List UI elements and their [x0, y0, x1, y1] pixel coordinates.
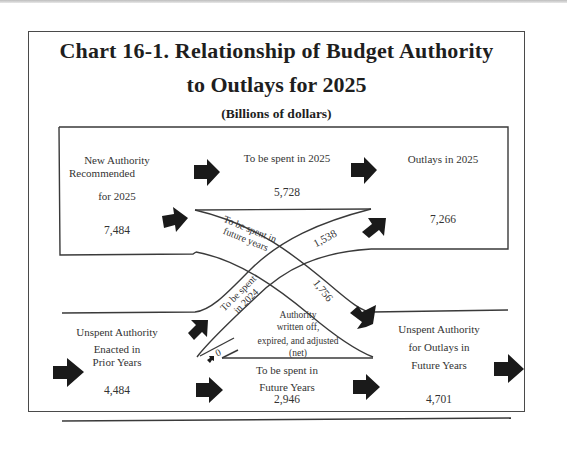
arrow-new-to-2025	[194, 159, 220, 186]
unspent-prior-label-3: Prior Years	[62, 356, 172, 368]
new-authority-label-1: New Authority	[62, 154, 172, 166]
to-be-spent-2025-value: 5,728	[222, 186, 352, 198]
bottom-band-line	[62, 418, 511, 421]
new-authority-label-2: Recommended	[62, 167, 142, 179]
unspent-future-label-3: Future Years	[384, 359, 494, 371]
unspent-prior-label-2: Enacted in	[62, 343, 172, 355]
written-off-label-3: expired, and adjusted	[238, 336, 358, 346]
to-be-spent-future-label-1: To be spent in	[227, 364, 347, 376]
unspent-prior-label-1: Unspent Authority	[62, 326, 172, 338]
new-authority-value: 7,484	[62, 224, 172, 236]
new-authority-label-3: for 2025	[62, 190, 172, 202]
arrow-zero	[207, 356, 214, 363]
unspent-future-label-2: for Outlays in	[384, 341, 494, 353]
unspent-future-value: 4,701	[384, 393, 494, 405]
spent-2025-wedge-top	[195, 209, 371, 210]
to-be-spent-future-label-2: Future Years	[227, 381, 347, 393]
written-off-label-1: Authority	[238, 310, 358, 320]
outlays-2025-label: Outlays in 2025	[378, 153, 508, 165]
unspent-prior-value: 4,484	[62, 384, 172, 396]
written-off-label-2: written off,	[238, 322, 358, 332]
to-be-spent-future-value: 2,946	[227, 393, 347, 405]
arrow-2025-to-outlays	[351, 157, 377, 184]
arrow-prior-up	[188, 320, 208, 340]
unspent-future-label-1: Unspent Authority	[384, 323, 494, 335]
to-be-spent-2025-label: To be spent in 2025	[222, 152, 352, 164]
arrow-right-out	[494, 354, 524, 383]
written-off-label-4: (net)	[238, 348, 358, 358]
arrow-prior-to-future	[196, 377, 223, 403]
outlays-2025-value: 7,266	[378, 213, 508, 225]
arrow-future-to-unspent	[353, 374, 380, 400]
